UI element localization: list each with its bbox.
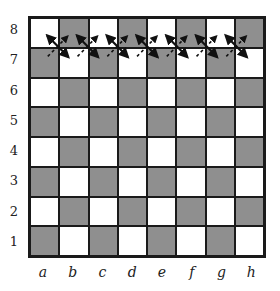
square-a7 — [30, 48, 59, 78]
square-b4 — [59, 137, 88, 167]
square-h8 — [235, 18, 264, 48]
square-b8 — [59, 18, 88, 48]
square-e4 — [147, 137, 176, 167]
square-b5 — [59, 107, 88, 137]
square-g1 — [206, 226, 235, 256]
square-e1 — [147, 226, 176, 256]
square-a2 — [30, 197, 59, 227]
square-b3 — [59, 167, 88, 197]
rank-label-4: 4 — [6, 143, 22, 158]
rank-label-7: 7 — [6, 52, 22, 67]
square-a4 — [30, 137, 59, 167]
square-d6 — [118, 78, 147, 108]
square-f3 — [176, 167, 205, 197]
square-h3 — [235, 167, 264, 197]
square-c5 — [89, 107, 118, 137]
file-label-e: e — [147, 264, 177, 280]
square-g3 — [206, 167, 235, 197]
square-h2 — [235, 197, 264, 227]
file-label-c: c — [88, 264, 118, 280]
rank-label-6: 6 — [6, 83, 22, 98]
square-g5 — [206, 107, 235, 137]
square-g8 — [206, 18, 235, 48]
square-d8 — [118, 18, 147, 48]
square-h5 — [235, 107, 264, 137]
square-c1 — [89, 226, 118, 256]
square-e3 — [147, 167, 176, 197]
square-g4 — [206, 137, 235, 167]
square-a5 — [30, 107, 59, 137]
square-f4 — [176, 137, 205, 167]
square-f5 — [176, 107, 205, 137]
square-c2 — [89, 197, 118, 227]
square-g7 — [206, 48, 235, 78]
square-e8 — [147, 18, 176, 48]
chessboard — [28, 16, 266, 258]
square-b2 — [59, 197, 88, 227]
square-b1 — [59, 226, 88, 256]
square-g2 — [206, 197, 235, 227]
square-c3 — [89, 167, 118, 197]
square-d5 — [118, 107, 147, 137]
square-h1 — [235, 226, 264, 256]
square-e7 — [147, 48, 176, 78]
rank-label-5: 5 — [6, 113, 22, 128]
rank-label-1: 1 — [6, 234, 22, 249]
file-label-f: f — [177, 264, 207, 280]
file-label-g: g — [207, 264, 237, 280]
square-d2 — [118, 197, 147, 227]
square-e5 — [147, 107, 176, 137]
rank-label-3: 3 — [6, 173, 22, 188]
file-label-b: b — [58, 264, 88, 280]
square-e6 — [147, 78, 176, 108]
square-a1 — [30, 226, 59, 256]
square-h7 — [235, 48, 264, 78]
square-c6 — [89, 78, 118, 108]
square-d1 — [118, 226, 147, 256]
square-g6 — [206, 78, 235, 108]
square-b7 — [59, 48, 88, 78]
square-d7 — [118, 48, 147, 78]
square-d4 — [118, 137, 147, 167]
square-c8 — [89, 18, 118, 48]
square-f1 — [176, 226, 205, 256]
square-b6 — [59, 78, 88, 108]
square-f8 — [176, 18, 205, 48]
square-a6 — [30, 78, 59, 108]
square-f7 — [176, 48, 205, 78]
square-d3 — [118, 167, 147, 197]
square-e2 — [147, 197, 176, 227]
square-f6 — [176, 78, 205, 108]
file-label-d: d — [117, 264, 147, 280]
square-f2 — [176, 197, 205, 227]
rank-label-8: 8 — [6, 22, 22, 37]
file-label-h: h — [236, 264, 266, 280]
file-label-a: a — [28, 264, 58, 280]
square-c4 — [89, 137, 118, 167]
square-a8 — [30, 18, 59, 48]
square-h4 — [235, 137, 264, 167]
square-h6 — [235, 78, 264, 108]
rank-label-2: 2 — [6, 204, 22, 219]
square-c7 — [89, 48, 118, 78]
square-a3 — [30, 167, 59, 197]
